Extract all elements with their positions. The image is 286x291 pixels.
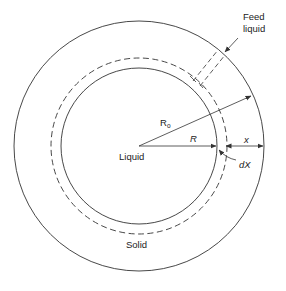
feed-label-line1: Feed bbox=[243, 11, 265, 22]
r0-label: Ro bbox=[160, 117, 171, 129]
r-label: R bbox=[190, 133, 197, 144]
feed-arrow bbox=[225, 38, 238, 52]
dx-arrow bbox=[219, 150, 236, 160]
x-label: x bbox=[243, 134, 250, 145]
liquid-label: Liquid bbox=[119, 151, 144, 162]
centrifuge-diagram: Feed liquid Ro R x dX Liquid Solid bbox=[0, 0, 286, 291]
feed-label-line2: liquid bbox=[243, 23, 265, 34]
solid-label: Solid bbox=[126, 239, 147, 250]
dx-label: dX bbox=[239, 159, 251, 170]
